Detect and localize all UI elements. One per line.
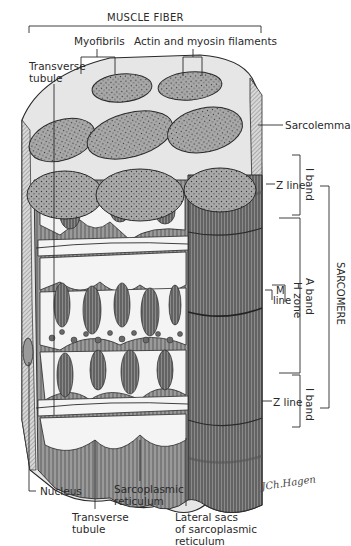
transverse-tubule-bottom-label: Transverse tubule xyxy=(72,511,129,535)
m-line-label: M line xyxy=(273,286,291,306)
muscle-fiber-title: MUSCLE FIBER xyxy=(107,12,184,24)
z-line-bottom-label: Z line xyxy=(273,396,302,408)
fiber-body: JCh.Hagen xyxy=(22,55,316,513)
nucleus-label: Nucleus xyxy=(40,485,82,497)
myofibrils-label: Myofibrils xyxy=(74,35,125,47)
i-band-top-label: I band xyxy=(304,168,316,201)
sarcomere-label: SARCOMERE xyxy=(335,262,346,325)
actin-myosin-label: Actin and myosin filaments xyxy=(134,35,277,47)
sarcolemma-label: Sarcolemma xyxy=(285,119,351,131)
i-band-bottom-label: I band xyxy=(304,388,316,421)
nucleus xyxy=(23,338,33,366)
lateral-sacs-label: Lateral sacs of sarcoplasmic reticulum xyxy=(175,511,257,546)
a-band-label: A band xyxy=(304,278,316,315)
h-zone-label: H zone xyxy=(292,282,304,318)
muscle-fiber-bracket xyxy=(29,26,261,33)
transverse-tubule-top-label: Transverse tubule xyxy=(29,60,86,84)
z-line-top-label: Z line xyxy=(276,179,305,191)
artist-signature: JCh.Hagen xyxy=(259,473,317,492)
sarcoplasmic-reticulum-label: Sarcoplasmic reticulum xyxy=(114,483,184,507)
